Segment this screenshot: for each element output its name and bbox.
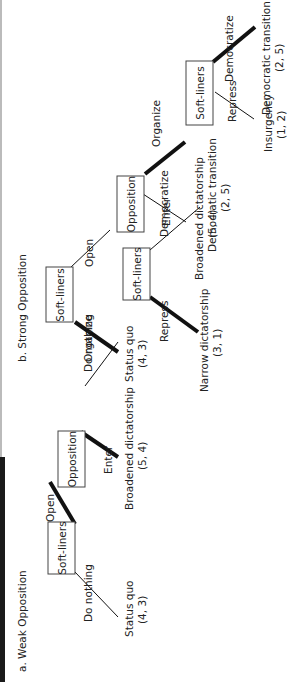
node-label: Soft-liners — [194, 66, 206, 119]
panel-b-title: b. Strong Opposition — [16, 254, 28, 362]
move-enter: Enter — [102, 445, 114, 474]
page-edge-bar — [0, 0, 4, 682]
outcome-status-quo-payoff: (4, 3) — [136, 340, 148, 368]
node-label: Opposition — [125, 176, 137, 233]
rotated-figure: a. Weak Opposition Soft-liners Oppositio… — [0, 0, 304, 682]
move-do-nothing: Do nothing — [82, 314, 94, 372]
node-label: Soft-liners — [131, 247, 143, 300]
outcome-narrow: Narrow dictatorship — [198, 288, 210, 392]
move-repress: Repress — [158, 301, 170, 342]
node-label: Soft-liners — [56, 521, 68, 574]
outcome-democratic-payoff: (2, 5) — [273, 44, 285, 72]
outcome-broadened-payoff: (5, 4) — [206, 210, 218, 238]
outcome-democratic-payoff: (2, 5) — [219, 184, 231, 212]
outcome-status-quo-payoff: (4, 3) — [136, 596, 148, 624]
outcome-democratic: Democratic transition — [260, 1, 272, 115]
move-organize: Organize — [150, 100, 162, 147]
outcome-insurgency-payoff: (1, 2) — [275, 111, 287, 139]
move-enter: Enter — [160, 197, 172, 226]
outcome-status-quo: Status quo — [123, 325, 135, 382]
outcome-status-quo: Status quo — [123, 580, 135, 637]
move-do-nothing: Do nothing — [82, 564, 94, 622]
outcome-broadened: Broadened dictatorship — [193, 157, 205, 280]
move-open: Open — [83, 239, 95, 267]
node-label: Opposition — [66, 431, 78, 488]
outcome-broadened: Broadened dictatorship — [123, 387, 135, 510]
game-trees-figure: a. Weak Opposition Soft-liners Oppositio… — [0, 0, 304, 682]
node-label: Soft-liners — [54, 268, 66, 321]
move-democratize: Democratize — [223, 15, 235, 82]
move-open: Open — [44, 494, 56, 522]
move-repress: Repress — [226, 81, 238, 122]
outcome-narrow-payoff: (3, 1) — [211, 329, 223, 357]
panel-strong-opposition: b. Strong Opposition Soft-liners Opposit… — [16, 1, 287, 382]
outcome-broadened-payoff: (5, 4) — [136, 442, 148, 470]
panel-a-title: a. Weak Opposition — [16, 570, 28, 672]
